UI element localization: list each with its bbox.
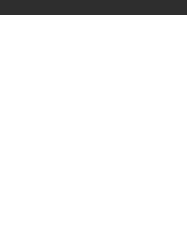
fretboard-grid: [0, 0, 187, 252]
